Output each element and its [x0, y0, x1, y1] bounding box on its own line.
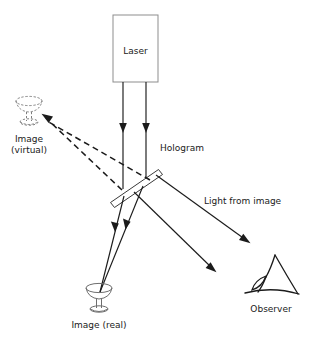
virtual-image-label-group: Image (virtual): [11, 134, 47, 155]
observer-ray-upper: [156, 175, 251, 243]
observer-ray-upper-arrowhead: [239, 234, 251, 244]
real-image-ray-left: [100, 196, 124, 292]
laser-beam-right: [142, 82, 150, 178]
light-from-image-label: Light from image: [204, 196, 282, 206]
virtual-image-goblet: [16, 96, 42, 125]
virtual-goblet-rim: [16, 96, 42, 105]
virtual-image-label-line2: (virtual): [11, 145, 47, 155]
hologram-label: Hologram: [160, 143, 204, 153]
observer-forehead: [266, 255, 275, 277]
observer-cheek: [275, 255, 298, 294]
laser-beam-left-arrowhead: [119, 123, 127, 133]
laser-beam-left: [119, 82, 127, 189]
observer-label: Observer: [250, 304, 292, 314]
virtual-image-label-line1: Image: [15, 134, 44, 144]
diagram-canvas: Laser Hologram: [0, 0, 312, 340]
virtual-ray-lower: [47, 121, 150, 180]
observer-eye: Observer: [245, 255, 299, 314]
real-goblet-rim: [86, 283, 112, 292]
real-image-goblet: [86, 283, 112, 312]
holography-diagram: Laser Hologram: [0, 0, 312, 340]
laser-source: Laser: [113, 15, 158, 82]
virtual-ray-arrowhead: [42, 114, 54, 123]
real-goblet-bowl: [86, 288, 112, 299]
observer-jaw: [245, 290, 299, 294]
real-image-label: Image (real): [71, 320, 126, 330]
laser-beam-right-arrowhead: [142, 123, 150, 133]
laser-label: Laser: [123, 46, 148, 56]
virtual-goblet-bowl: [16, 101, 42, 112]
